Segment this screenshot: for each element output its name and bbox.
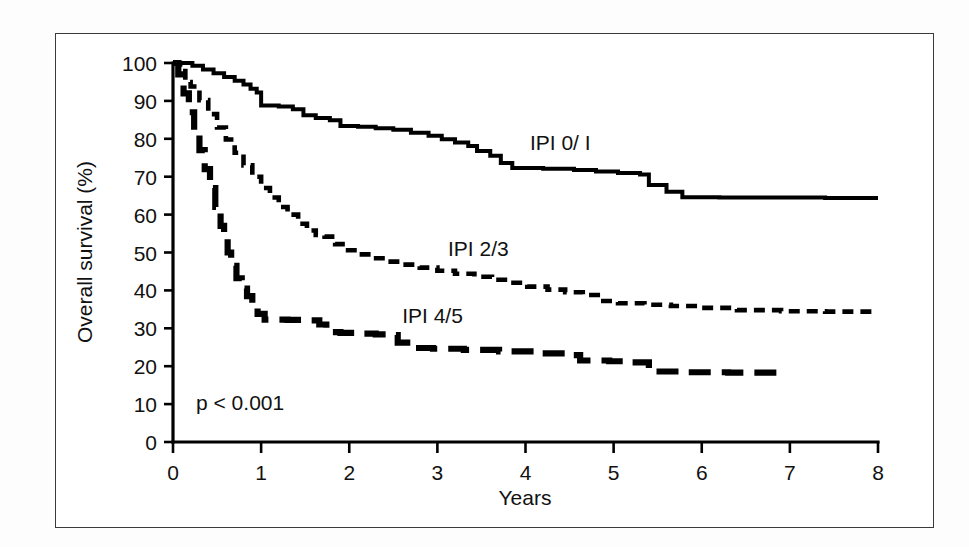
p-value-annotation: p < 0.001 xyxy=(196,391,284,414)
x-tick-label-6: 6 xyxy=(696,461,708,484)
y-tick-label-100: 100 xyxy=(122,52,157,75)
km-curve-1 xyxy=(173,63,878,312)
x-tick-label-4: 4 xyxy=(520,461,532,484)
x-tick-label-8: 8 xyxy=(872,461,884,484)
y-tick-label-50: 50 xyxy=(134,242,157,265)
y-tick-label-90: 90 xyxy=(134,90,157,113)
figure-page: 0102030405060708090100 012345678 IPI 0/ … xyxy=(0,0,969,547)
x-axis-tick-labels: 012345678 xyxy=(167,461,884,484)
x-tick-label-0: 0 xyxy=(167,461,179,484)
y-tick-label-30: 30 xyxy=(134,317,157,340)
y-tick-label-70: 70 xyxy=(134,166,157,189)
km-curve-2 xyxy=(173,63,781,373)
x-tick-label-3: 3 xyxy=(432,461,444,484)
series-labels: IPI 0/ IIPI 2/3IPI 4/5 xyxy=(402,131,590,326)
x-tick-label-2: 2 xyxy=(343,461,355,484)
series-label-1: IPI 2/3 xyxy=(448,237,509,260)
series-label-0: IPI 0/ I xyxy=(530,131,591,154)
y-tick-label-10: 10 xyxy=(134,393,157,416)
series-label-2: IPI 4/5 xyxy=(402,304,463,327)
y-tick-label-60: 60 xyxy=(134,204,157,227)
x-axis-title: Years xyxy=(499,486,552,509)
y-tick-label-0: 0 xyxy=(145,431,157,454)
y-tick-label-20: 20 xyxy=(134,355,157,378)
x-axis-ticks xyxy=(173,442,878,453)
x-tick-label-5: 5 xyxy=(608,461,620,484)
x-tick-label-7: 7 xyxy=(784,461,796,484)
km-curve-0 xyxy=(173,63,878,198)
survival-chart: 0102030405060708090100 012345678 IPI 0/ … xyxy=(0,0,969,547)
y-axis-title: Overall survival (%) xyxy=(73,161,96,343)
y-tick-label-80: 80 xyxy=(134,128,157,151)
y-axis-tick-labels: 0102030405060708090100 xyxy=(122,52,157,454)
km-curves xyxy=(173,63,878,373)
x-tick-label-1: 1 xyxy=(255,461,267,484)
y-tick-label-40: 40 xyxy=(134,279,157,302)
